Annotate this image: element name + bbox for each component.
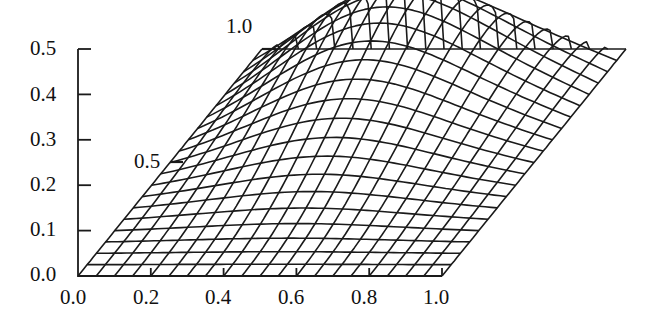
grid-line-depth: [142, 174, 506, 196]
x-tick-label-0.4: 0.4: [205, 287, 231, 308]
z-tick-label-0.5: 0.5: [30, 38, 56, 59]
x-tick-label-0.0: 0.0: [60, 287, 86, 308]
z-tick-label-0.3: 0.3: [30, 129, 56, 150]
z-tick-label-0.0: 0.0: [30, 264, 56, 285]
x-tick-label-1.0: 1.0: [423, 287, 449, 308]
z-tick-label-0.4: 0.4: [30, 84, 56, 105]
grid-line-depth: [161, 137, 525, 173]
x-tick-label-0.6: 0.6: [278, 287, 304, 308]
depth-tick-label-1.0: 1.0: [226, 16, 252, 37]
grid-line-depth: [198, 60, 562, 129]
grid-line-x: [96, 45, 280, 276]
grid-line-depth: [188, 79, 552, 140]
grid-line-depth: [133, 192, 497, 208]
grid-line-depth: [124, 208, 488, 219]
grid-line-x: [424, 47, 608, 276]
wireframe-surface: [78, 0, 626, 276]
surface-plot: [0, 0, 658, 330]
depth-tick-label-0.5: 0.5: [134, 151, 160, 172]
z-tick-label-0.1: 0.1: [30, 219, 56, 240]
x-tick-label-0.2: 0.2: [133, 287, 159, 308]
x-tick-label-0.8: 0.8: [351, 287, 377, 308]
z-tick-label-0.2: 0.2: [30, 174, 56, 195]
